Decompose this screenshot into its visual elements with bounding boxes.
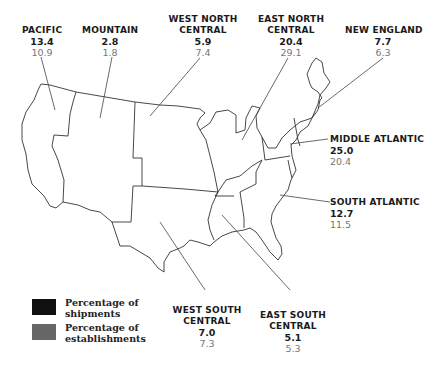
establishments-value: 5.3 (258, 343, 328, 354)
shipments-value: 5.9 (168, 36, 238, 47)
shipments-value: 7.0 (172, 327, 242, 338)
region-name: MIDDLE ATLANTIC (330, 134, 430, 145)
label-south-atlantic: SOUTH ATLANTIC 12.7 11.5 (330, 197, 430, 230)
esc-sa-border (240, 160, 262, 228)
label-mountain: MOUNTAIN 2.8 1.8 (82, 25, 138, 58)
wnc-wsc-border (142, 186, 234, 196)
region-name: EAST NORTH (256, 14, 326, 25)
label-west-north-central: WEST NORTH CENTRAL 5.9 7.4 (168, 14, 238, 58)
legend-label: Percentage of shipments (65, 297, 155, 319)
region-name: CENTRAL (256, 25, 326, 36)
region-name: NEW ENGLAND (345, 25, 421, 36)
region-name: WEST SOUTH (172, 305, 242, 316)
swatch-establishments (32, 324, 56, 340)
region-name: WEST NORTH (168, 14, 238, 25)
region-name: CENTRAL (168, 25, 238, 36)
region-name: PACIFIC (22, 25, 62, 36)
establishments-value: 7.3 (172, 338, 242, 349)
shipments-value: 5.1 (258, 332, 328, 343)
shipments-value: 20.4 (256, 36, 326, 47)
establishments-value: 6.3 (345, 47, 421, 58)
region-name: MOUNTAIN (82, 25, 138, 36)
label-west-south-central: WEST SOUTH CENTRAL 7.0 7.3 (172, 305, 242, 349)
shipments-value: 2.8 (82, 36, 138, 47)
mountain-wnc-border (112, 102, 142, 222)
wnc-enc-border (200, 130, 218, 192)
shipments-value: 12.7 (330, 208, 430, 219)
chesapeake (288, 160, 292, 178)
label-east-north-central: EAST NORTH CENTRAL 20.4 29.1 (256, 14, 326, 58)
region-name: EAST SOUTH (258, 310, 328, 321)
label-pacific: PACIFIC 13.4 10.9 (22, 25, 62, 58)
pacific-mountain-border (52, 92, 76, 202)
establishments-value: 11.5 (330, 219, 430, 230)
shipments-value: 25.0 (330, 145, 430, 156)
shipments-value: 13.4 (22, 36, 62, 47)
establishments-value: 29.1 (256, 47, 326, 58)
establishments-value: 1.8 (82, 47, 138, 58)
wsc-esc-border (208, 192, 218, 240)
ma-sa-border (265, 156, 290, 160)
label-east-south-central: EAST SOUTH CENTRAL 5.1 5.3 (258, 310, 328, 354)
shipments-value: 7.7 (345, 36, 421, 47)
legend-item-shipments: Percentage of shipments (32, 297, 155, 319)
establishments-value: 20.4 (330, 156, 430, 167)
establishments-value: 10.9 (22, 47, 62, 58)
label-middle-atlantic: MIDDLE ATLANTIC 25.0 20.4 (330, 134, 430, 167)
legend-item-establishments: Percentage of establishments (32, 322, 155, 344)
enc-esc-border (218, 160, 262, 192)
legend: Percentage of shipments Percentage of es… (32, 297, 155, 347)
swatch-shipments (32, 299, 56, 315)
legend-label: Percentage of establishments (65, 322, 155, 344)
region-name: SOUTH ATLANTIC (330, 197, 430, 208)
label-new-england: NEW ENGLAND 7.7 6.3 (345, 25, 421, 58)
establishments-value: 7.4 (168, 47, 238, 58)
region-name: CENTRAL (172, 316, 242, 327)
region-name: CENTRAL (258, 321, 328, 332)
us-outline (22, 58, 330, 272)
